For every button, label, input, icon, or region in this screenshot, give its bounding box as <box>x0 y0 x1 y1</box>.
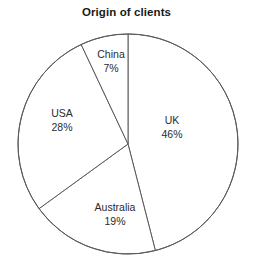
pie-label-uk: UK46% <box>161 114 182 141</box>
pie-label-name: UK <box>161 114 182 128</box>
pie-label-name: USA <box>51 107 73 121</box>
pie-chart-figure: Origin of clients UK46%Australia19%USA28… <box>0 0 253 276</box>
pie-label-value: 7% <box>97 61 124 75</box>
pie-label-australia: Australia19% <box>95 201 136 228</box>
pie-label-name: Australia <box>95 201 136 215</box>
pie-label-usa: USA28% <box>51 107 73 134</box>
pie-label-value: 46% <box>161 127 182 141</box>
pie-label-value: 19% <box>95 214 136 228</box>
pie-label-value: 28% <box>51 120 73 134</box>
pie-label-name: China <box>97 48 124 62</box>
pie-chart-canvas <box>0 0 253 276</box>
pie-label-china: China7% <box>97 48 124 75</box>
